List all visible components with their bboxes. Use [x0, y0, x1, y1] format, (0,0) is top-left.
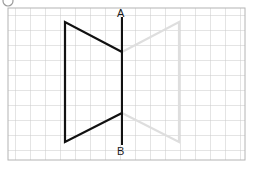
- grid-area: [8, 8, 245, 160]
- figure-canvas: A B: [0, 0, 253, 169]
- corner-circle-marker: [3, 0, 13, 6]
- point-label-a: A: [117, 8, 124, 19]
- grid-lines: [8, 8, 245, 160]
- point-label-b: B: [117, 146, 124, 157]
- circle-marker-icon: [3, 0, 13, 6]
- reflection-figure: [0, 0, 253, 169]
